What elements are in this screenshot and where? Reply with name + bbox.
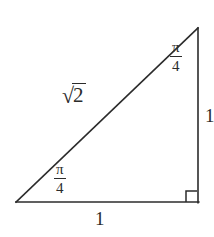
base-length-label: 1 [95, 209, 105, 228]
fraction-numerator: π [170, 40, 182, 56]
fraction-denominator: 4 [170, 58, 182, 74]
hypotenuse-length-label: √2 [62, 83, 86, 106]
right-angle-marker-icon [186, 191, 197, 202]
radical-sign: √ [62, 85, 74, 107]
fraction-bar [170, 56, 182, 57]
fraction-numerator: π [54, 162, 66, 178]
base-angle-label: π 4 [54, 162, 66, 196]
fraction-bar [54, 178, 66, 179]
triangle-diagram [0, 0, 214, 237]
square-root-icon: √2 [62, 83, 86, 106]
fraction-denominator: 4 [54, 180, 66, 196]
triangle-figure: √2 π 4 π 4 1 1 [0, 0, 214, 237]
radicand-value: 2 [72, 83, 86, 106]
fraction: π 4 [170, 40, 182, 74]
fraction: π 4 [54, 162, 66, 196]
apex-angle-label: π 4 [170, 40, 182, 74]
right-leg-length-label: 1 [205, 106, 214, 125]
